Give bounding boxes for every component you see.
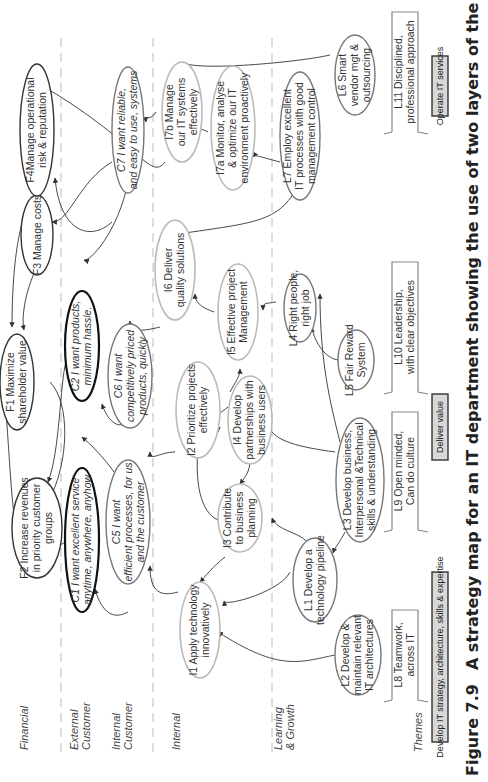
node-I7b[interactable]: I7b Manageour IT systemseffectively bbox=[162, 62, 202, 162]
edge-I2-C6 bbox=[150, 452, 175, 456]
svg-text:C2 I want products,minimum has: C2 I want products,minimum hassle. bbox=[69, 301, 93, 391]
node-L4[interactable]: L4 Right people,right job bbox=[284, 270, 316, 346]
edge-C7-F4 bbox=[55, 178, 112, 232]
svg-text:L7 Employ excellentIT processe: L7 Employ excellentIT processes with goo… bbox=[281, 82, 317, 190]
edge-L6-I7b bbox=[182, 55, 330, 66]
strategy-map-diagram: Financial ExternalCustomer InternalCusto… bbox=[0, 0, 488, 782]
node-L5[interactable]: L5 Fair RewardSystem bbox=[338, 324, 374, 396]
node-I3[interactable]: I3 Contributeto businessplanning bbox=[218, 484, 262, 552]
edge-I7b-C7 bbox=[146, 112, 156, 122]
node-L2[interactable]: L2 Develop &maintain relevantIT architec… bbox=[335, 615, 381, 695]
node-C5[interactable]: C5 I wantefficient processes, for usand … bbox=[106, 460, 150, 584]
svg-text:Operate IT services: Operate IT services bbox=[435, 46, 445, 125]
edge-L4-I5 bbox=[263, 302, 276, 310]
node-I4[interactable]: I4 Developpartnerships withbusiness user… bbox=[228, 376, 272, 464]
lane-label-internal: Internal bbox=[170, 713, 182, 750]
edge-L7-I7a bbox=[253, 156, 280, 162]
node-F2[interactable]: F2 Increase revenuesin priority customer… bbox=[12, 477, 62, 579]
svg-text:Develop IT strategy, architect: Develop IT strategy, architecture, skill… bbox=[435, 556, 445, 757]
edge-I7b-F4 bbox=[36, 82, 165, 167]
lane-label-themes: Themes bbox=[412, 712, 424, 752]
edge-I3-I1 bbox=[200, 557, 225, 582]
svg-text:F1 Maximizeshareholder value: F1 Maximizeshareholder value bbox=[4, 340, 28, 424]
edge-L2-I1 bbox=[218, 632, 335, 661]
lane-label-learning-growth: Learning& Growth bbox=[272, 704, 296, 750]
culture-L10[interactable]: L10 Leadership,with clear objectives bbox=[384, 262, 428, 394]
node-L6[interactable]: L6 Smartvendor mgt &outsourcing bbox=[335, 35, 375, 115]
node-L3[interactable]: L3 Develop business,Interpersonal &Techn… bbox=[336, 418, 384, 542]
figure-caption: Figure 7.9A strategy map for an IT depar… bbox=[463, 0, 482, 776]
node-L7[interactable]: L7 Employ excellentIT processes with goo… bbox=[280, 72, 320, 200]
node-I2[interactable]: I2 Prioritize projectseffectively bbox=[176, 362, 220, 458]
edge-C2-F2 bbox=[48, 362, 66, 482]
culture-L8[interactable]: L8 Teamwork,across IT bbox=[384, 610, 428, 702]
figure-number: Figure 7.9 bbox=[463, 684, 482, 776]
node-F3[interactable]: F3 Manage costs bbox=[21, 195, 53, 276]
lane-label-financial: Financial bbox=[18, 705, 30, 750]
node-C2[interactable]: C2 I want products,minimum hassle. bbox=[65, 291, 99, 401]
svg-text:F4Manage operationalrisk & rep: F4Manage operationalrisk & reputation bbox=[24, 77, 48, 182]
node-I1[interactable]: I1 Apply technologyinnovatively bbox=[180, 582, 220, 678]
theme-operate-it-services[interactable]: Operate IT services bbox=[432, 46, 448, 125]
node-I5[interactable]: I5 Effective projectManagement bbox=[218, 264, 258, 360]
svg-text:L2 Develop &maintain relevantI: L2 Develop &maintain relevantIT architec… bbox=[339, 615, 375, 695]
node-C6[interactable]: C6 I wantcompetitively pricedproducts, q… bbox=[108, 324, 152, 428]
strategy-map-page: Financial ExternalCustomer InternalCusto… bbox=[0, 0, 488, 782]
edge-L1-I1 bbox=[224, 572, 290, 602]
theme-develop-it-strategy[interactable]: Develop IT strategy, architecture, skill… bbox=[432, 556, 448, 757]
svg-text:L11 Disciplined,professional a: L11 Disciplined,professional approach bbox=[392, 20, 416, 123]
node-F1[interactable]: F1 Maximizeshareholder value bbox=[0, 334, 34, 430]
culture-L9[interactable]: L9 Open minded,Can do culture bbox=[384, 412, 428, 532]
node-C7[interactable]: C7 I want reliable,and easy to use, syst… bbox=[112, 67, 144, 193]
svg-text:Deliver value: Deliver value bbox=[435, 401, 445, 453]
lane-label-internal-customer: InternalCustomer bbox=[110, 701, 134, 750]
svg-text:L3 Develop business,Interperso: L3 Develop business,Interpersonal &Techn… bbox=[341, 423, 377, 538]
node-I7a[interactable]: I7a Monitor, analyse& optimize our ITenv… bbox=[211, 66, 255, 190]
edge-I1-C5 bbox=[150, 566, 178, 594]
svg-text:F3 Manage costs: F3 Manage costs bbox=[31, 195, 43, 276]
svg-text:L10 Leadership,with clear obje: L10 Leadership,with clear objectives bbox=[392, 280, 416, 375]
edge-L3-L1 bbox=[333, 532, 345, 553]
node-L1[interactable]: L1 Develop atechnology pipeline bbox=[293, 535, 337, 625]
edge-C5-C1 bbox=[95, 589, 128, 615]
edge-L5-L4 bbox=[312, 327, 338, 360]
culture-L11[interactable]: L11 Disciplined,professional approach bbox=[384, 12, 428, 134]
edge-I5-I6 bbox=[195, 294, 214, 312]
figure-caption-text: A strategy map for an IT department show… bbox=[463, 0, 482, 670]
svg-text:L9 Open minded,Can do culture: L9 Open minded,Can do culture bbox=[392, 431, 416, 512]
edge-L7-I6 bbox=[178, 182, 300, 234]
theme-deliver-value[interactable]: Deliver value bbox=[432, 394, 448, 460]
lane-labels: Financial ExternalCustomer InternalCusto… bbox=[18, 701, 424, 752]
lane-label-external-customer: ExternalCustomer bbox=[68, 701, 92, 750]
edge-L3-I4 bbox=[268, 426, 335, 452]
svg-text:C1 I want excellent serviceany: C1 I want excellent serviceanytime, anyw… bbox=[69, 474, 93, 606]
svg-text:C7 I want reliable,and easy to: C7 I want reliable,and easy to use, syst… bbox=[115, 70, 139, 189]
edge-L3-L4 bbox=[320, 294, 340, 442]
svg-text:I5 Effective projectManagement: I5 Effective projectManagement bbox=[225, 269, 249, 355]
svg-text:Figure 7.9A strategy map for a: Figure 7.9A strategy map for an IT depar… bbox=[463, 0, 482, 776]
edge-C7-C2 bbox=[84, 182, 128, 260]
node-F4[interactable]: F4Manage operationalrisk & reputation bbox=[20, 64, 54, 196]
node-C1[interactable]: C1 I want excellent serviceanytime, anyw… bbox=[65, 468, 99, 612]
svg-text:I7a Monitor, analyse& optimize: I7a Monitor, analyse& optimize our ITenv… bbox=[214, 72, 250, 184]
node-I6[interactable]: I6 Deliverquality solutions bbox=[155, 220, 195, 320]
